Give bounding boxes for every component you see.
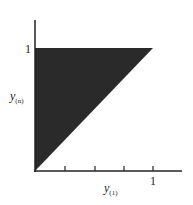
shaded-region xyxy=(35,48,153,171)
y-axis-label: y(n) xyxy=(10,90,24,107)
y-tick-label-1: 1 xyxy=(25,43,31,55)
x-axis-label-sub: (1) xyxy=(109,189,117,197)
y-axis-label-sub: (n) xyxy=(15,97,23,105)
x-tick-label-1: 1 xyxy=(150,175,156,187)
x-axis-label: y(1) xyxy=(104,182,118,199)
joint-support-plot xyxy=(0,0,193,205)
